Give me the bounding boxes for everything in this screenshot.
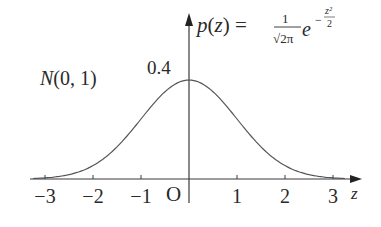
x-tick-label: −1 [130,185,151,207]
x-axis-arrow-icon [350,175,362,183]
x-axis-label: z [350,184,358,203]
x-tick-label: 2 [280,185,290,207]
x-tick-labels: −3−2−1123 [34,185,338,207]
origin-label: O [166,182,181,206]
exp-sign: − [315,13,322,27]
exp-numerator: z² [324,5,333,16]
normal-distribution-chart: −3−2−1123 O z 0.4 N(0, 1) p(z) = 1 √2π e… [0,0,381,227]
fraction-numerator: 1 [282,11,289,26]
exp-base: e [302,18,311,40]
x-tick-label: −2 [82,185,103,207]
fraction-denominator: √2π [273,31,294,46]
svg-text:p(z) =: p(z) = [195,13,247,37]
peak-value-label: 0.4 [147,57,171,78]
exp-denominator: 2 [327,18,332,29]
distribution-title: N(0, 1) [39,67,97,90]
x-tick-label: 3 [328,185,338,207]
y-axis-arrow-icon [185,13,193,26]
x-tick-label: −3 [34,185,55,207]
density-formula: p(z) = 1 √2π e − z² 2 [195,5,335,46]
x-tick-label: 1 [232,185,242,207]
